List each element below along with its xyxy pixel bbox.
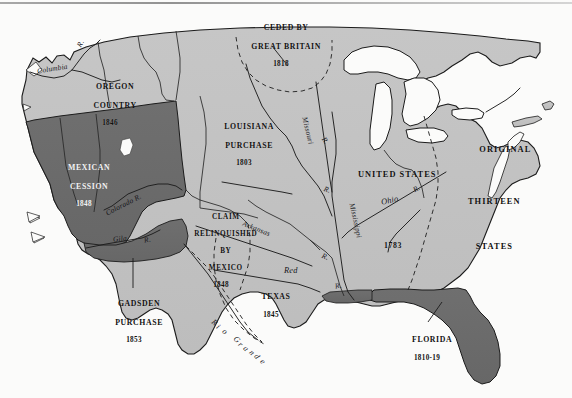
claim-line-1: CLAIM: [212, 213, 240, 221]
ceded-line-2: GREAT BRITAIN: [251, 42, 321, 51]
oregon-line-1: OREGON: [96, 82, 134, 91]
claim-line-4: MEXICO: [209, 264, 243, 272]
label-louisiana-purchase: LOUISIANA PURCHASE 1803: [196, 113, 292, 186]
rio-grande-letter: e: [258, 357, 267, 365]
label-gadsden-purchase: GADSDEN PURCHASE 1853: [98, 290, 170, 363]
historical-map-figure: CEDED BY GREAT BRITAIN 1818 OREGON COUNT…: [0, 0, 572, 398]
label-original: ORIGINAL: [463, 135, 535, 165]
states-text: STATES: [476, 242, 513, 251]
river-label-gila: Gila: [113, 233, 128, 243]
label-oregon-country: OREGON COUNTRY 1846: [63, 73, 157, 146]
river-label-red-r: R.: [334, 280, 342, 290]
river-label-gila-r: R.: [143, 234, 151, 244]
louisiana-line-1: LOUISIANA: [224, 122, 274, 131]
ceded-year: 1818: [216, 60, 346, 68]
gadsden-year: 1853: [98, 336, 170, 344]
claim-line-3: BY: [220, 247, 231, 255]
ceded-line-1: CEDED BY: [264, 23, 309, 32]
label-mexican-cession: MEXICAN CESSION 1848: [41, 154, 127, 227]
florida-year: 1810-19: [388, 354, 466, 362]
label-ceded-by-great-britain: CEDED BY GREAT BRITAIN 1818: [216, 14, 346, 87]
oregon-line-2: COUNTRY: [93, 101, 136, 110]
label-united-states: UNITED STATES: [345, 160, 437, 190]
label-thirteen: THIRTEEN: [452, 187, 524, 217]
louisiana-year: 1803: [196, 159, 292, 167]
river-label-rio-grande: Rio Grande: [212, 318, 292, 378]
river-st-lawrence: [486, 88, 520, 112]
cape-cod: [542, 101, 554, 110]
louisiana-line-2: PURCHASE: [225, 141, 273, 150]
rio-grande-letter: o: [220, 326, 229, 335]
oregon-year: 1846: [63, 119, 157, 127]
florida-name: FLORIDA: [412, 335, 452, 344]
lake-ontario: [452, 108, 484, 120]
mexican-line-1: MEXICAN: [68, 163, 110, 172]
label-florida: FLORIDA 1810-19: [388, 326, 466, 380]
mexican-line-2: CESSION: [70, 182, 108, 191]
gadsden-line-1: GADSDEN: [118, 299, 160, 308]
long-island: [512, 116, 542, 127]
us-year-text: 1783: [384, 241, 402, 250]
original-text: ORIGINAL: [479, 145, 531, 154]
thirteen-text: THIRTEEN: [468, 197, 521, 206]
gulf-coast-strip: [322, 290, 372, 303]
claim-line-2: RELINQUISHED: [194, 230, 257, 238]
river-label-red: Red: [284, 266, 298, 275]
united-states-text: UNITED STATES: [358, 170, 437, 179]
texas-name: TEXAS: [262, 292, 291, 301]
gadsden-line-2: PURCHASE: [115, 318, 163, 327]
label-us-year-1783: 1783: [370, 232, 406, 260]
label-states: STATES: [456, 232, 520, 262]
